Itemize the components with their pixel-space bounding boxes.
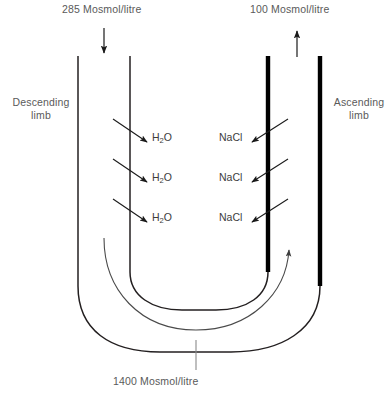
ascending-limb-label-line1: Ascending bbox=[334, 96, 384, 108]
water-label-1-tail: O bbox=[164, 131, 172, 143]
loop-diagram-svg bbox=[0, 0, 391, 396]
water-label-3-base: H bbox=[152, 211, 160, 223]
loop-of-henle-diagram: 285 Mosmol/litre 100 Mosmol/litre Descen… bbox=[0, 0, 391, 396]
ascending-limb-osmolarity-label: 100 Mosmol/litre bbox=[250, 3, 329, 16]
salt-label-1: NaCl bbox=[219, 131, 242, 143]
descending-limb-label: Descending limb bbox=[5, 96, 77, 122]
descending-limb-osmolarity-label: 285 Mosmol/litre bbox=[62, 3, 141, 16]
descending-limb-label-line2: limb bbox=[31, 109, 51, 121]
water-label-1: H2O bbox=[152, 131, 172, 145]
salt-label-3: NaCl bbox=[219, 211, 242, 223]
water-label-1-base: H bbox=[152, 131, 160, 143]
loop-inner-bend bbox=[130, 272, 268, 310]
ascending-limb-label: Ascending limb bbox=[329, 96, 389, 122]
water-label-3-tail: O bbox=[164, 211, 172, 223]
loop-outer-bend bbox=[78, 286, 320, 352]
water-label-2-base: H bbox=[152, 171, 160, 183]
water-label-2: H2O bbox=[152, 171, 172, 185]
loop-bottom-osmolarity-label: 1400 Mosmol/litre bbox=[113, 375, 198, 388]
salt-label-2: NaCl bbox=[219, 171, 242, 183]
water-label-3: H2O bbox=[152, 211, 172, 225]
water-label-2-tail: O bbox=[164, 171, 172, 183]
descending-limb-label-line1: Descending bbox=[13, 96, 70, 108]
ascending-limb-label-line2: limb bbox=[349, 109, 369, 121]
